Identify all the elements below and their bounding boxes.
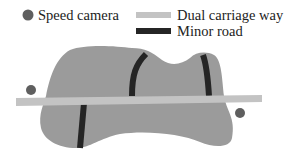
legend-dual-carriageway-swatch	[136, 12, 171, 18]
legend-label-speed-camera: Speed camera	[38, 8, 119, 23]
map-diagram: Speed camera Dual carriage way Minor roa…	[0, 0, 287, 160]
speed-camera-left-icon	[26, 85, 36, 95]
speed-camera-right-icon	[235, 108, 245, 118]
map-svg	[0, 0, 287, 160]
legend-label-minor-road: Minor road	[177, 24, 243, 39]
legend-label-dual-carriageway: Dual carriage way	[177, 8, 283, 23]
legend-minor-road-swatch	[136, 28, 171, 34]
legend-speed-camera-icon	[23, 10, 34, 21]
minor-road-left	[80, 103, 84, 148]
